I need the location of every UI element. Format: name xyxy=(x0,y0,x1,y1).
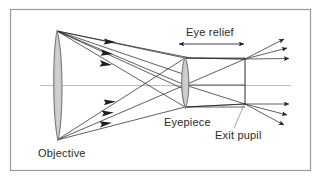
ray-a2 xyxy=(57,31,245,104)
incoming-upper-bundle xyxy=(57,31,188,90)
label-objective: Objective xyxy=(38,147,86,159)
outgoing-ray-l3 xyxy=(245,104,284,125)
ray-a3 xyxy=(57,31,245,107)
outgoing-upper-bundle xyxy=(245,39,289,59)
optical-diagram-figure: Eye relief Objective Eyepiece Exit pupil xyxy=(0,0,321,180)
label-exit-pupil: Exit pupil xyxy=(215,129,262,141)
label-eyepiece: Eyepiece xyxy=(164,116,211,128)
label-eye-relief: Eye relief xyxy=(186,26,235,38)
incoming-ray-u3 xyxy=(57,31,186,90)
outgoing-ray-u2 xyxy=(245,48,287,59)
outgoing-ray-u3 xyxy=(245,59,289,60)
outgoing-ray-l2 xyxy=(245,104,287,115)
outgoing-lower-bundle xyxy=(245,104,289,125)
outgoing-ray-u1 xyxy=(245,39,284,59)
exit-pupil-leader-line xyxy=(234,105,244,128)
ray-b2 xyxy=(57,59,245,140)
